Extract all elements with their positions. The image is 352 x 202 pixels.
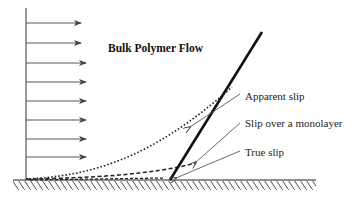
wall-surface [13,180,316,190]
leader-lines [176,94,240,178]
diagram-title: Bulk Polymer Flow [108,42,204,55]
velocity-arrows [26,23,86,157]
monolayer-slip-label: Slip over a monolayer [245,117,343,129]
wall-hatching [13,181,316,190]
apparent-slip-label: Apparent slip [245,90,305,102]
slip-diagram: Bulk Polymer Flow Apparent slip Slip ove… [0,0,352,202]
apparent-slip-leader [190,94,240,127]
true-slip-label: True slip [245,146,285,158]
